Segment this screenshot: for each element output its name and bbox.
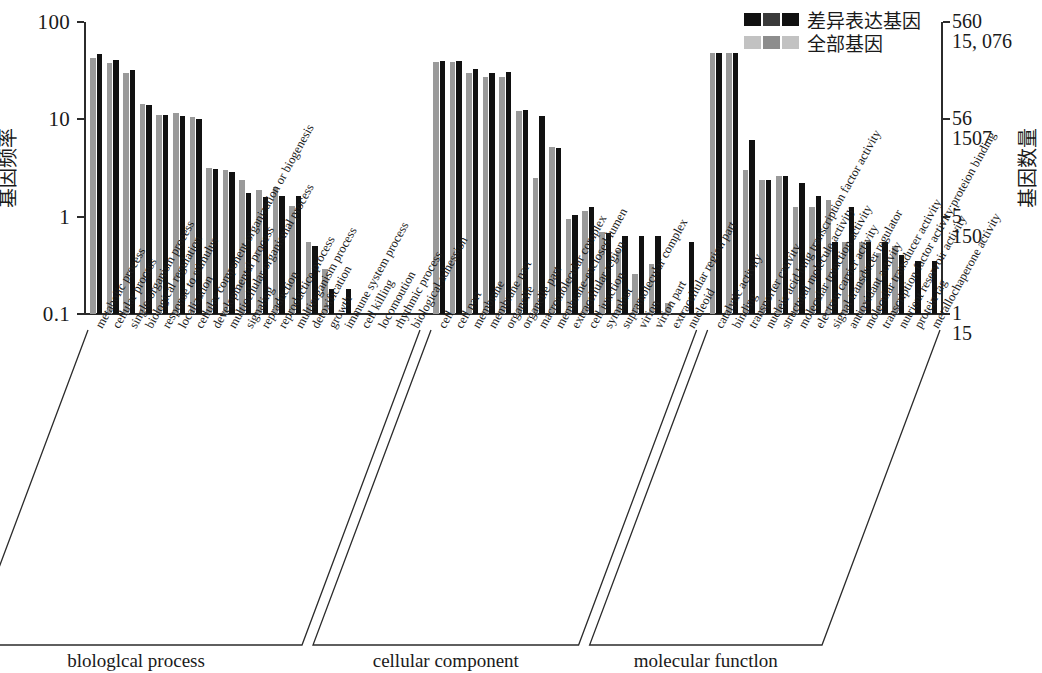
chart-canvas: 差异表达基因 全部基因 基因频率 基因数量 1001010.1 56015, 0… (0, 0, 1042, 673)
group-label: molecular functlon (634, 650, 778, 672)
group-bracket-outline (0, 0, 1042, 673)
